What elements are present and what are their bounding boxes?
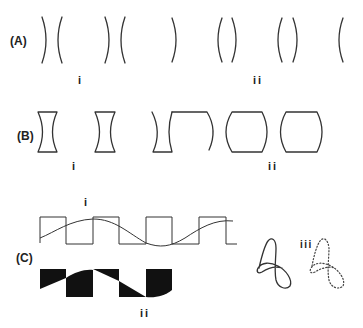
sine-wave <box>40 219 233 246</box>
arc-right-2 <box>105 17 109 63</box>
panel-label-b: (B) <box>17 129 34 143</box>
dotted-loop <box>310 239 343 288</box>
filled-region-5 <box>146 269 172 297</box>
square-wave <box>40 217 237 244</box>
arc-left-1 <box>58 17 62 63</box>
arc-right-1 <box>42 17 46 63</box>
open-convex-shape <box>172 112 213 150</box>
arc-right-5 <box>293 18 297 62</box>
panel-label-c: (C) <box>16 251 33 265</box>
sublabel-c-ii: ii <box>140 307 150 319</box>
panel-label-a: (A) <box>10 34 27 48</box>
filled-region-4 <box>119 281 146 297</box>
concave-lens-1 <box>38 112 57 152</box>
half-concave-lens <box>152 112 172 152</box>
panel-b-lenses <box>38 112 322 152</box>
arc-left-5 <box>339 18 343 62</box>
square-wave-with-sine <box>40 217 237 246</box>
panel-a-arcs <box>42 17 343 63</box>
arc-right-3 <box>172 18 176 62</box>
sublabel-a-ii: ii <box>253 74 263 86</box>
sublabel-c-i: i <box>84 196 87 208</box>
arc-right-4 <box>232 18 236 62</box>
arc-left-3 <box>218 18 222 62</box>
arc-left-4 <box>278 18 282 62</box>
filled-difference-shapes <box>40 269 172 297</box>
filled-region-3 <box>93 269 119 281</box>
solid-loop <box>257 239 290 288</box>
filled-region-1 <box>40 269 66 289</box>
arc-left-2 <box>121 17 125 63</box>
sublabel-c-iii: iii <box>300 239 313 250</box>
convex-lens-2 <box>281 112 323 152</box>
sublabel-a-i: i <box>78 74 81 86</box>
convex-lens-1 <box>226 112 267 152</box>
sublabel-b-i: i <box>72 160 75 172</box>
concave-lens-2 <box>95 112 115 152</box>
sublabel-b-ii: ii <box>268 160 278 172</box>
figure-canvas: (A) i ii (B) i ii i <box>0 0 363 328</box>
filled-region-2 <box>66 270 93 297</box>
